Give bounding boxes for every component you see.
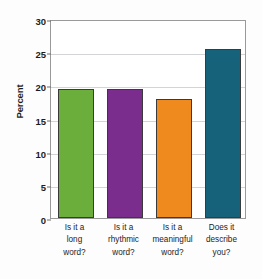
plot-area: 051015202530 — [50, 20, 246, 219]
y-tick-label: 25 — [35, 49, 46, 60]
x-axis-label: Does itdescribeyou? — [193, 222, 250, 259]
y-tick-label: 20 — [35, 82, 46, 93]
y-tick-label: 5 — [41, 181, 46, 192]
y-axis-title: Percent — [14, 72, 25, 132]
y-tick-label: 30 — [35, 16, 46, 27]
bar — [156, 99, 192, 218]
bar — [58, 89, 94, 218]
y-tick-label: 15 — [35, 115, 46, 126]
bar-chart: Percent 051015202530 Is it alongword?Is … — [0, 0, 262, 279]
bars-group — [51, 21, 245, 218]
bar — [205, 49, 241, 218]
x-label-line: describe — [193, 234, 250, 246]
x-axis-labels: Is it alongword?Is it arhythmicword?Is i… — [50, 222, 246, 274]
x-label-line: Does it — [193, 222, 250, 234]
y-tick-mark — [47, 220, 51, 221]
x-label-line: you? — [193, 247, 250, 259]
bar — [107, 89, 143, 218]
y-tick-label: 10 — [35, 148, 46, 159]
